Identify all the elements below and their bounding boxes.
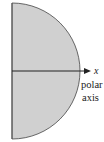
axis-x-label: x [93, 65, 99, 76]
polar-caption-line1: polar [81, 79, 103, 90]
arrow-head-icon [84, 68, 91, 74]
polar-diagram: x polar axis [0, 0, 104, 142]
polar-caption-line2: axis [82, 92, 99, 103]
